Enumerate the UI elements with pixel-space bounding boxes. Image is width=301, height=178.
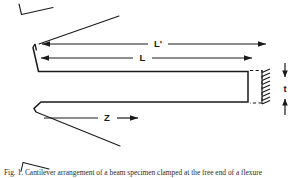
beam-left-throat [35,44,37,51]
figure-container: L' L t Z Fig. 1. Cantilever arrangement … [0,0,301,178]
fixed-support-hatching [262,69,270,104]
label-t: t [283,83,287,94]
beam-diagram-svg: L' L t Z [0,0,301,178]
figure-caption: Fig. 1. Cantilever arrangement of a beam… [4,168,300,178]
label-L-prime: L' [154,38,162,49]
leader-line-top [39,16,119,44]
fixed-support-dashed-box [250,71,262,104]
top-left-bracket-mark [19,4,53,15]
label-Z: Z [104,112,110,123]
label-L: L [140,52,146,63]
